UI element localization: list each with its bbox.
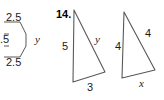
triangle-two-base-label: x [139,78,144,89]
triangle-two-shape [122,12,155,78]
triangle-two-outline [122,12,155,78]
left-polygon-variable-label: y [35,34,40,45]
left-polygon-middle-length-label: .5 [0,34,9,45]
triangle-one-shape [73,10,105,82]
triangle-one-hypotenuse-label: y [95,34,100,45]
left-polygon-bottom-length-label: 2.5 [6,57,21,68]
triangle-one-base-label: 3 [87,82,93,93]
problem-number-label: 14. [56,9,71,20]
triangle-two-right-side-label: 4 [145,28,151,39]
triangle-one-left-side-label: 5 [62,41,68,52]
triangle-two-left-side-label: 4 [115,41,121,52]
triangle-one-outline [73,10,105,82]
left-polygon-upper-right-edge [20,22,26,34]
geometry-figure-canvas: 2.5 .5 2.5 y 14. 5 y 3 4 4 x [0,0,164,100]
left-polygon-top-length-label: 2.5 [6,12,21,23]
